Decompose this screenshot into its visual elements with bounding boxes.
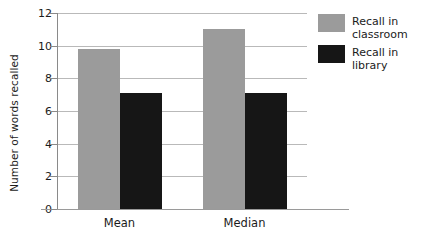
y-axis-tick-label: 10 <box>18 39 52 52</box>
bar <box>78 49 120 209</box>
y-axis-tick-label: 12 <box>18 7 52 20</box>
bars-layer <box>57 13 307 209</box>
bar <box>203 29 245 209</box>
legend-swatch <box>318 45 345 63</box>
legend-item: Recall in classroom <box>318 14 408 41</box>
legend-label: Recall in classroom <box>352 14 408 41</box>
bar-chart: Number of words recalled 121086420 MeanM… <box>0 0 434 246</box>
y-axis-tick-mark <box>50 111 57 112</box>
y-axis-tick-mark <box>50 78 57 79</box>
y-axis-tick-label: 4 <box>18 137 52 150</box>
y-axis-tick-mark <box>50 144 57 145</box>
y-axis-tick-mark <box>50 13 57 14</box>
y-axis-tick-mark <box>50 209 57 210</box>
legend-label: Recall in library <box>352 45 434 72</box>
y-axis-tick-mark <box>50 176 57 177</box>
legend-item: Recall in library <box>318 45 434 72</box>
bar <box>120 93 162 209</box>
y-axis-tick-label: 2 <box>18 170 52 183</box>
x-axis-line <box>41 209 349 210</box>
y-axis-tick-mark <box>50 46 57 47</box>
y-axis-tick-label: 6 <box>18 105 52 118</box>
y-axis-tick-label: 8 <box>18 72 52 85</box>
legend-swatch <box>318 14 345 32</box>
bar <box>245 93 287 209</box>
x-axis-tick-label: Mean <box>104 216 135 230</box>
x-axis-tick-label: Median <box>224 216 266 230</box>
